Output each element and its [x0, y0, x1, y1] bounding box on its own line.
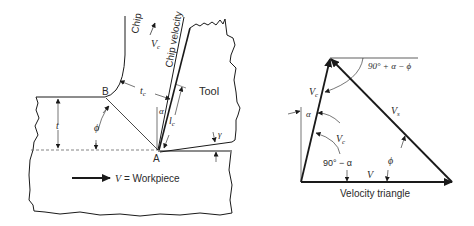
lc-label: lc — [169, 115, 176, 128]
chip-outer-edge — [105, 16, 125, 97]
lc-extension-line — [175, 84, 186, 88]
shear-plane — [106, 98, 158, 150]
angle-inner-label: 90° − α — [323, 158, 352, 168]
velocity-triangle: 90° + α − ϕ Vc α Vc Vs 90° − α V ϕ Veloc… — [288, 58, 452, 199]
tc-label: tc — [140, 85, 147, 98]
workpiece-outline — [29, 97, 232, 216]
gamma-label: γ — [218, 129, 222, 139]
vs-label: Vs — [391, 105, 400, 118]
phi-arrow-upper — [103, 106, 109, 113]
chip-velocity-label: Chip velocity — [163, 11, 184, 69]
tc-dimension-arrow-right — [155, 94, 170, 99]
phi-arrow-up — [401, 136, 405, 148]
phi-label: ϕ — [94, 122, 99, 133]
point-a-label: A — [153, 153, 160, 164]
v-label: V — [367, 169, 375, 180]
tc-dimension-arrow-left — [120, 81, 135, 87]
vc-upper-sub: c — [315, 91, 319, 99]
angle-inner-arc — [318, 113, 340, 123]
orthogonal-cutting-diagram: Chip Chip velocity Vc Tool B A tc lc t α… — [0, 0, 474, 226]
vc-upper-label: Vc — [309, 86, 319, 99]
t-label: t — [56, 120, 59, 131]
lc-dimension-arrow-up — [175, 87, 182, 115]
vc-label-sub: c — [157, 43, 161, 51]
angle-top-label: 90° + α − ϕ — [368, 61, 411, 71]
velocity-triangle-caption: Velocity triangle — [340, 188, 410, 199]
vs-sub: s — [397, 110, 400, 118]
vc-arrow — [150, 23, 155, 35]
phi-label-triangle: ϕ — [388, 155, 393, 166]
lc-dimension-arrow-down — [164, 135, 169, 148]
vc-inner-label: Vc — [336, 133, 346, 146]
cutting-diagram: Chip Chip velocity Vc Tool B A tc lc t α… — [29, 11, 240, 216]
phi-arrow-down — [387, 170, 388, 181]
chip-label: Chip — [129, 12, 143, 35]
point-b-label: B — [102, 86, 109, 97]
vc-inner-sub: c — [342, 138, 346, 146]
gamma-arrow-upper — [213, 132, 215, 142]
alpha-label: α — [159, 106, 164, 116]
alpha-label-triangle: α — [306, 109, 311, 119]
workpiece-text: = Workpiece — [121, 173, 180, 184]
alpha-arrow — [288, 111, 300, 114]
tool-label: Tool — [199, 85, 219, 97]
tc-label-sub: c — [143, 90, 147, 98]
workpiece-label: V = Workpiece — [115, 173, 180, 184]
vc-label: Vc — [151, 38, 161, 51]
lc-label-sub: c — [172, 120, 176, 128]
